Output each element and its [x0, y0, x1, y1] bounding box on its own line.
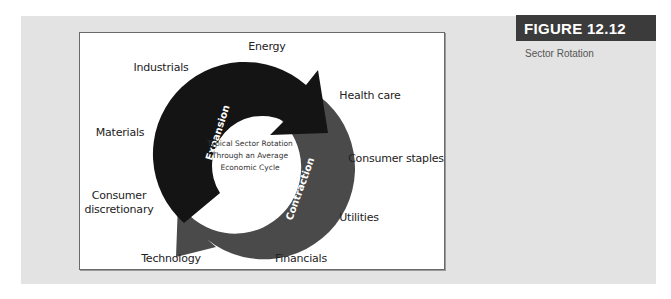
- sector-energy: Energy: [248, 40, 285, 53]
- figure-caption: Sector Rotation: [525, 48, 594, 59]
- figure-number: FIGURE 12.12: [524, 20, 626, 37]
- figure-number-header: FIGURE 12.12: [516, 15, 656, 41]
- sector-health-care: Health care: [339, 89, 400, 102]
- sector-industrials: Industrials: [133, 61, 188, 74]
- center-text-line: Typical Sector Rotation: [207, 138, 293, 150]
- sector-consumer-discretionary: Consumer discretionary: [84, 189, 153, 217]
- sector-materials: Materials: [96, 126, 145, 139]
- sector-financials: Financials: [275, 252, 327, 265]
- sector-label-line: discretionary: [84, 203, 153, 217]
- sector-rotation-diagram: Expansion Contraction Typical Sector Rot…: [79, 32, 445, 270]
- center-text-line: Economic Cycle: [207, 162, 293, 174]
- sector-label-line: Consumer: [84, 189, 153, 203]
- sector-utilities: Utilities: [339, 211, 379, 224]
- sector-technology: Technology: [141, 252, 201, 265]
- sector-consumer-staples: Consumer staples: [348, 152, 444, 165]
- center-text: Typical Sector Rotation Through an Avera…: [207, 138, 293, 174]
- center-text-line: Through an Average: [207, 150, 293, 162]
